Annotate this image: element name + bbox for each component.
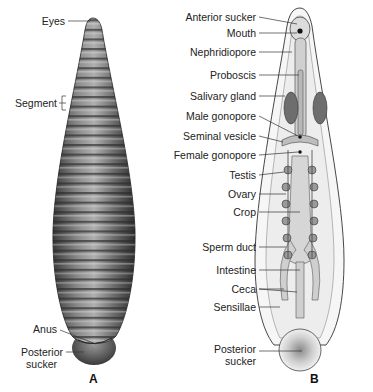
panel-a-body bbox=[53, 18, 135, 365]
male-gonopore bbox=[298, 135, 302, 139]
label-posterior-sucker-b-1: Posterior bbox=[214, 343, 256, 355]
salivary-gland-right bbox=[313, 92, 327, 124]
posterior-sucker-b bbox=[279, 329, 321, 371]
intestine bbox=[296, 262, 304, 318]
label-posterior-sucker-a-1: Posterior bbox=[21, 346, 63, 358]
label-male-gonopore: Male gonopore bbox=[186, 110, 256, 122]
salivary-gland-left bbox=[284, 92, 298, 124]
proboscis bbox=[298, 70, 303, 135]
label-proboscis: Proboscis bbox=[210, 69, 256, 81]
label-anterior-sucker: Anterior sucker bbox=[185, 11, 256, 23]
label-salivary-gland: Salivary gland bbox=[190, 90, 256, 102]
panel-letter-b: B bbox=[310, 372, 319, 386]
label-ovary: Ovary bbox=[228, 188, 256, 200]
label-posterior-sucker-b-2: sucker bbox=[225, 355, 256, 367]
label-ceca: Ceca bbox=[231, 283, 256, 295]
mouth bbox=[297, 28, 302, 33]
label-mouth: Mouth bbox=[227, 27, 256, 39]
label-posterior-sucker-a-2: sucker bbox=[26, 358, 57, 370]
panel-b-body bbox=[255, 8, 344, 371]
panel-letter-a: A bbox=[89, 372, 98, 386]
label-seminal-vesicle: Seminal vesicle bbox=[183, 130, 256, 142]
label-female-gonopore: Female gonopore bbox=[174, 149, 256, 161]
label-intestine: Intestine bbox=[216, 264, 256, 276]
label-sensillae: Sensillae bbox=[213, 301, 256, 313]
label-segment: Segment bbox=[15, 97, 57, 109]
body-segments bbox=[53, 18, 135, 344]
label-anus: Anus bbox=[33, 323, 57, 335]
label-sperm-duct: Sperm duct bbox=[202, 241, 256, 253]
label-crop: Crop bbox=[233, 206, 256, 218]
label-nephridiopore: Nephridiopore bbox=[190, 46, 256, 58]
female-gonopore bbox=[298, 150, 302, 154]
label-eyes: Eyes bbox=[42, 15, 65, 27]
label-testis: Testis bbox=[229, 169, 256, 181]
